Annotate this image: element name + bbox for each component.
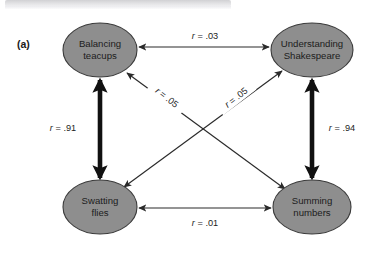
node-understanding-shakespeare[interactable]: Understanding Shakespeare bbox=[271, 23, 353, 77]
correlation-diagram-figure: Balancing teacups Understanding Shakespe… bbox=[0, 0, 379, 260]
r-label-text: r = .94 bbox=[329, 123, 355, 133]
label-bottom-horizontal: r = .01 bbox=[184, 217, 226, 229]
label-diagonal-teacups-numbers: r = .05 bbox=[147, 80, 187, 115]
r-label-text: r = .91 bbox=[50, 123, 76, 133]
node-label-line1: Understanding bbox=[281, 38, 343, 49]
label-left-vertical: r = .91 bbox=[42, 122, 84, 134]
r-label-text: r = .03 bbox=[192, 31, 218, 41]
panel-label: (a) bbox=[17, 38, 30, 50]
node-summing-numbers[interactable]: Summing numbers bbox=[273, 180, 351, 234]
node-label-line1: Balancing bbox=[79, 38, 121, 49]
node-label-line2: flies bbox=[91, 207, 108, 218]
r-value: = .01 bbox=[195, 218, 218, 228]
label-diagonal-shakespeare-flies: r = .05 bbox=[216, 80, 256, 115]
r-label-text: r = .01 bbox=[192, 218, 218, 228]
node-label-line2: numbers bbox=[293, 207, 331, 218]
r-value: = .03 bbox=[195, 31, 218, 41]
label-top-horizontal: r = .03 bbox=[184, 30, 226, 42]
r-value: = .91 bbox=[53, 123, 76, 133]
node-swatting-flies[interactable]: Swatting flies bbox=[63, 180, 137, 234]
r-value: = .94 bbox=[332, 123, 355, 133]
node-label-line1: Swatting bbox=[82, 195, 119, 206]
node-label-line2: teacups bbox=[83, 50, 117, 61]
label-right-vertical: r = .94 bbox=[321, 122, 363, 134]
node-label-line1: Summing bbox=[292, 195, 333, 206]
diagram-canvas: Balancing teacups Understanding Shakespe… bbox=[0, 0, 379, 260]
node-label-line2: Shakespeare bbox=[284, 50, 341, 61]
node-balancing-teacups[interactable]: Balancing teacups bbox=[63, 23, 137, 77]
